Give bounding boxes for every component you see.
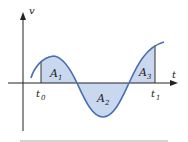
region-a1-label: A <box>49 67 58 80</box>
t1-subscript: 1 <box>156 94 160 102</box>
v-axis-arrow-icon <box>20 12 26 20</box>
region-a2-label: A <box>96 92 105 105</box>
region-a2-subscript: 2 <box>104 99 110 107</box>
t-axis-arrow-icon <box>170 80 178 86</box>
diagram-canvas: v t t 0 t 1 A 1 A 2 A 3 <box>0 0 188 142</box>
region-a3-label: A <box>138 66 147 79</box>
t-axis-label: t <box>172 69 177 80</box>
v-axis-label: v <box>29 5 35 16</box>
signal-area-diagram: v t t 0 t 1 A 1 A 2 A 3 <box>0 0 188 142</box>
t0-subscript: 0 <box>41 94 46 102</box>
region-a1-subscript: 1 <box>58 74 62 82</box>
region-a3-subscript: 3 <box>147 73 152 81</box>
